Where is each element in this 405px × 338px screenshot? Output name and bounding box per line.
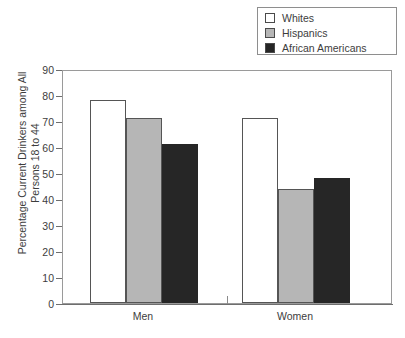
y-tick-40 <box>56 200 62 201</box>
y-tick-label-80: 80 <box>30 91 54 101</box>
y-tick-80 <box>56 96 62 97</box>
y-tick-label-70: 70 <box>30 117 54 127</box>
y-tick-label-90: 90 <box>30 65 54 75</box>
legend-item-whites: Whites <box>265 11 396 25</box>
y-tick-label-60: 60 <box>30 143 54 153</box>
x-axis-mid-tick <box>227 296 228 304</box>
bar-men-whites <box>90 100 126 303</box>
y-axis: 0102030405060708090 <box>26 0 54 338</box>
y-tick-label-10: 10 <box>30 273 54 283</box>
chart-legend: Whites Hispanics African Americans <box>257 7 397 55</box>
y-tick-0 <box>56 304 62 305</box>
legend-swatch-hispanics <box>265 28 275 38</box>
legend-label-whites: Whites <box>282 13 314 23</box>
y-tick-10 <box>56 278 62 279</box>
bar-women-african-americans <box>314 178 350 303</box>
y-tick-90 <box>56 70 62 71</box>
plot-area <box>62 70 392 304</box>
y-tick-60 <box>56 148 62 149</box>
y-tick-label-30: 30 <box>30 221 54 231</box>
y-tick-70 <box>56 122 62 123</box>
legend-item-african-americans: African Americans <box>265 41 396 55</box>
legend-swatch-whites <box>265 13 275 23</box>
x-tick-label-men: Men <box>104 310 182 322</box>
x-tick-label-women: Women <box>256 310 334 322</box>
bar-men-african-americans <box>162 144 198 303</box>
legend-swatch-african-americans <box>265 43 275 53</box>
y-tick-label-0: 0 <box>30 299 54 309</box>
legend-item-hispanics: Hispanics <box>265 26 396 40</box>
bars-layer <box>63 71 391 303</box>
y-tick-label-50: 50 <box>30 169 54 179</box>
legend-label-hispanics: Hispanics <box>282 28 328 38</box>
y-tick-50 <box>56 174 62 175</box>
y-tick-30 <box>56 226 62 227</box>
legend-label-african-americans: African Americans <box>282 43 367 53</box>
x-axis-line <box>62 304 393 305</box>
y-tick-label-40: 40 <box>30 195 54 205</box>
y-tick-label-20: 20 <box>30 247 54 257</box>
bar-men-hispanics <box>126 118 162 303</box>
bar-women-hispanics <box>278 189 314 303</box>
bar-women-whites <box>242 118 278 303</box>
y-tick-20 <box>56 252 62 253</box>
bar-chart: Whites Hispanics African Americans Perce… <box>0 0 405 338</box>
